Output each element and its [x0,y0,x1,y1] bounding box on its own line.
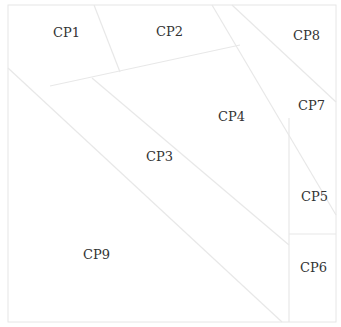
region-label-cp8: CP8 [293,28,320,43]
partition-diagram: CP1 CP2 CP8 CP7 CP4 CP3 CP5 CP9 CP6 [0,0,341,327]
region-label-cp2: CP2 [156,24,183,39]
region-label-cp5: CP5 [301,189,328,204]
region-label-cp3: CP3 [146,149,173,164]
region-label-cp6: CP6 [300,260,327,275]
region-label-cp9: CP9 [83,247,110,262]
region-label-cp1: CP1 [53,25,80,40]
region-label-cp7: CP7 [298,98,325,113]
region-label-cp4: CP4 [218,109,245,124]
